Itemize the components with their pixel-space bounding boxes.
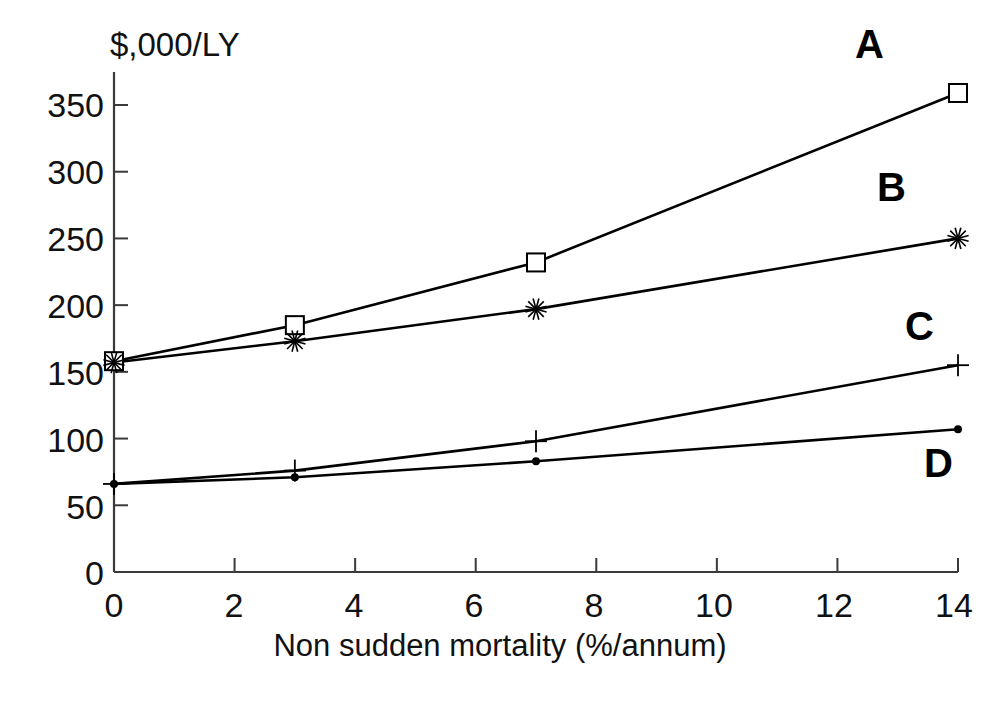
series-a-point-1	[286, 316, 304, 334]
series-d-point-2	[532, 457, 540, 465]
series-line-a	[114, 93, 958, 361]
series-d-point-3	[954, 425, 962, 433]
series-a-point-2	[527, 253, 545, 271]
series-d-point-0	[110, 480, 118, 488]
series-markers	[103, 84, 969, 495]
series-c-point-3	[947, 354, 969, 376]
series-lines	[114, 93, 958, 484]
series-c-point-2	[525, 430, 547, 452]
chart-figure: $,000/LY 350 300 250 200 150 100 50 0 0 …	[0, 0, 1000, 705]
y-axis-ticks	[114, 105, 128, 572]
plot-canvas	[0, 0, 1000, 705]
series-d-point-1	[291, 473, 299, 481]
x-axis-ticks	[114, 558, 958, 572]
axis-lines	[114, 72, 958, 572]
series-a-point-3	[949, 84, 967, 102]
series-line-c	[114, 365, 958, 484]
